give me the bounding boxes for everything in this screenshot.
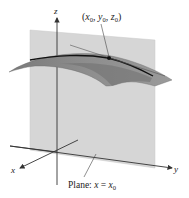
partial-derivative-diagram: z x y (x0, y0, z0) Plane: x = x0 <box>0 0 189 198</box>
diagram-svg: z x y (x0, y0, z0) Plane: x = x0 <box>0 0 189 198</box>
plane-caption: Plane: x = x0 <box>68 180 116 191</box>
z-axis-label: z <box>53 6 58 16</box>
x-axis-label: x <box>10 165 15 175</box>
point-label: (x0, y0, z0) <box>82 11 121 23</box>
y-axis-label: y <box>173 164 178 174</box>
plane-x-equals-x0 <box>30 30 155 168</box>
